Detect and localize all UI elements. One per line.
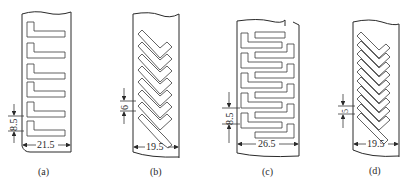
panel-b-caption: (b) (150, 166, 162, 178)
slot-pattern-figure: 8.5 21.5 (a) 6 19.5 (b) (0, 0, 407, 182)
panel-c-caption: (c) (262, 166, 273, 178)
panel-c: 8.5 26.5 (c) (222, 20, 299, 179)
panel-b-slots (138, 30, 172, 148)
panel-b-width-label: 19.5 (146, 141, 164, 152)
panel-d-caption: (d) (369, 165, 381, 177)
panel-c-width-label: 26.5 (258, 138, 276, 149)
panel-a-width-label: 21.5 (37, 139, 55, 150)
panel-a-pitch-label: 8.5 (8, 119, 19, 132)
panel-a: 8.5 21.5 (a) (8, 12, 71, 178)
panel-a-slots (27, 22, 65, 136)
panel-c-pitch-label: 8.5 (224, 113, 235, 126)
panel-b-frame (133, 13, 179, 158)
panel-b-pitch-label: 6 (119, 105, 130, 110)
panel-d-width-label: 19.5 (367, 138, 385, 149)
panel-b: 6 19.5 (b) (119, 13, 179, 178)
panel-d-pitch-label: 5 (341, 109, 350, 113)
panel-c-slots (241, 32, 294, 138)
panel-a-caption: (a) (38, 166, 49, 178)
panel-d-slots (357, 32, 390, 144)
panel-d: 5 19.5 (d) (338, 20, 399, 177)
